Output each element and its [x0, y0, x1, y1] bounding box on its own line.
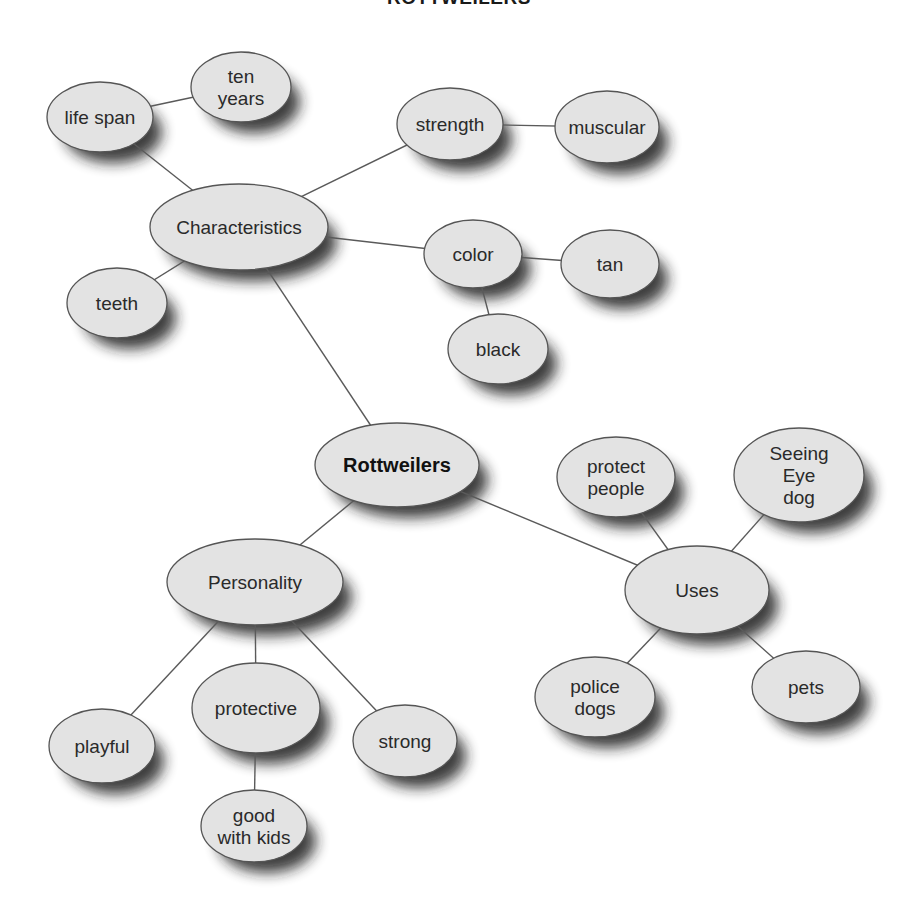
node-label: protect	[587, 456, 646, 477]
node-label: tan	[597, 254, 623, 275]
node-label: playful	[75, 736, 130, 757]
node-label: protective	[215, 698, 297, 719]
node-label: life span	[65, 107, 136, 128]
node-label: Personality	[208, 572, 302, 593]
node-good-with-kids: goodwith kids	[201, 790, 307, 862]
node-playful: playful	[49, 709, 155, 783]
nodes: RottweilersCharacteristicslife spantenye…	[47, 52, 864, 862]
node-uses: Uses	[625, 546, 769, 634]
node-rottweilers: Rottweilers	[315, 423, 479, 507]
node-protect-people: protectpeople	[557, 437, 675, 517]
node-strong: strong	[353, 705, 457, 777]
node-label: police	[570, 676, 620, 697]
node-black: black	[448, 314, 548, 384]
node-label: pets	[788, 677, 824, 698]
node-ten-years: tenyears	[191, 52, 291, 122]
node-label: teeth	[96, 293, 138, 314]
node-characteristics: Characteristics	[150, 184, 328, 270]
node-life-span: life span	[47, 82, 153, 152]
node-label: muscular	[568, 117, 646, 138]
node-muscular: muscular	[555, 91, 659, 163]
node-pets: pets	[752, 651, 860, 723]
node-label: color	[452, 244, 494, 265]
node-label: dogs	[574, 698, 615, 719]
node-label: Characteristics	[176, 217, 302, 238]
node-label: Rottweilers	[343, 454, 451, 476]
node-tan: tan	[561, 230, 659, 298]
node-label: strength	[416, 114, 485, 135]
node-label: years	[218, 88, 264, 109]
node-color: color	[424, 220, 522, 288]
node-label: ten	[228, 66, 254, 87]
node-label: dog	[783, 487, 815, 508]
node-personality: Personality	[167, 539, 343, 625]
node-police-dogs: policedogs	[535, 657, 655, 737]
node-label: good	[233, 805, 275, 826]
node-label: people	[587, 478, 644, 499]
node-label: Seeing	[769, 443, 828, 464]
concept-map: RottweilersCharacteristicslife spantenye…	[0, 0, 918, 916]
node-label: Eye	[783, 465, 816, 486]
node-label: black	[476, 339, 521, 360]
node-label: strong	[379, 731, 432, 752]
node-teeth: teeth	[67, 268, 167, 338]
node-label: Uses	[675, 580, 718, 601]
node-label: with kids	[217, 827, 291, 848]
node-protective: protective	[192, 663, 320, 753]
node-strength: strength	[397, 88, 503, 160]
node-seeing-eye-dog: SeeingEyedog	[734, 428, 864, 522]
